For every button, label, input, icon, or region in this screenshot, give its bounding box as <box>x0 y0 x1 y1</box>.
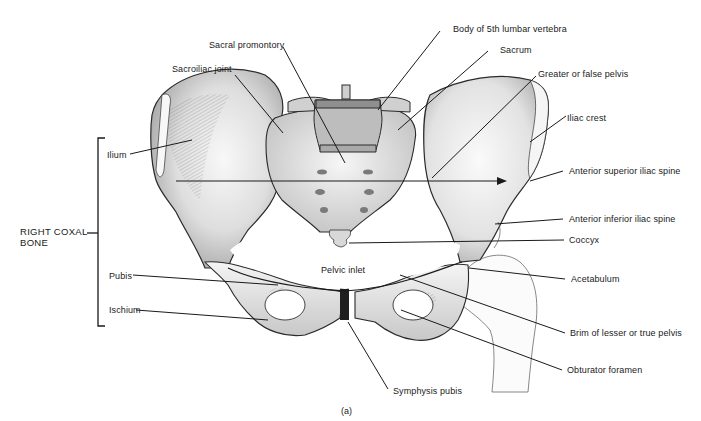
label-pubis: Pubis <box>109 271 132 281</box>
label-acetabulum: Acetabulum <box>571 274 620 284</box>
femur-outline <box>462 255 537 392</box>
coccyx-shape <box>329 230 350 247</box>
pelvis-diagram: RIGHT COXAL BONE Ilium Pubis Ischium Sac… <box>0 0 701 421</box>
label-aiis: Anterior inferior iliac spine <box>569 214 675 224</box>
label-asis: Anterior superior iliac spine <box>569 166 680 176</box>
coxal-bone-bracket <box>87 138 105 326</box>
label-body-5th-lumbar: Body of 5th lumbar vertebra <box>453 24 567 34</box>
label-ischium: Ischium <box>109 305 141 315</box>
label-symphysis-pubis: Symphysis pubis <box>393 386 462 396</box>
label-sacrum: Sacrum <box>500 45 532 55</box>
label-iliac-crest: Iliac crest <box>567 113 606 123</box>
label-coccyx: Coccyx <box>569 235 599 245</box>
label-sacroiliac-joint: Sacroiliac joint <box>172 64 232 74</box>
label-sacral-promontory: Sacral promontory <box>209 40 284 50</box>
label-brim-lesser-pelvis: Brim of lesser or true pelvis <box>570 328 682 338</box>
right-coxal-bone-label: RIGHT COXAL BONE <box>20 226 88 248</box>
label-ilium: Ilium <box>107 150 127 160</box>
symphysis-pad <box>340 288 349 320</box>
pelvis-illustration <box>0 0 701 421</box>
label-obturator-foramen: Obturator foramen <box>567 365 642 375</box>
label-greater-pelvis: Greater or false pelvis <box>538 69 628 79</box>
label-pelvic-inlet: Pelvic inlet <box>321 265 365 275</box>
figure-caption: (a) <box>341 406 352 416</box>
